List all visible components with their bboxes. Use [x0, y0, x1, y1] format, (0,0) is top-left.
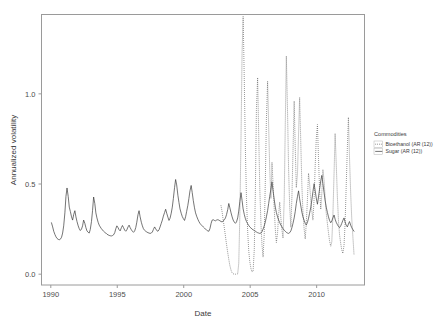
y-axis-title: Annualized volatility	[9, 115, 18, 185]
x-tick-label: 2005	[242, 290, 259, 299]
legend-title: Commodities	[374, 131, 407, 137]
x-axis-title: Date	[195, 309, 212, 318]
y-tick-label: 1.0	[25, 90, 35, 99]
plot-panel	[42, 15, 365, 286]
x-tick-label: 1995	[109, 290, 126, 299]
legend-entry-label: Sugar (AR (12))	[386, 148, 423, 154]
x-tick-label: 2010	[308, 290, 325, 299]
y-tick-label: 0.0	[25, 270, 35, 279]
legend-entry-label: Bioethanol (AR (12))	[386, 141, 434, 147]
x-tick-label: 1990	[42, 290, 59, 299]
y-tick-label: 0.5	[25, 180, 35, 189]
annualized-volatility-chart: 0.00.51.0 19901995200020052010 Annualize…	[0, 0, 447, 326]
x-tick-label: 2000	[175, 290, 192, 299]
